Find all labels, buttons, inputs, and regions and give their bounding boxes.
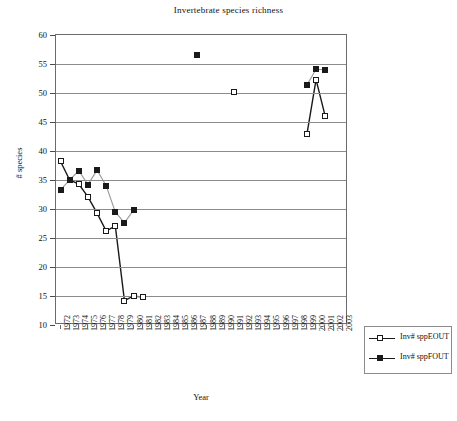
- x-tick-mark: [342, 325, 343, 329]
- x-tick-mark: [114, 325, 115, 329]
- x-tick-label: 1992: [245, 315, 254, 331]
- filled-square-icon: [112, 209, 118, 215]
- open-square-icon: [140, 294, 146, 300]
- x-tick-mark: [169, 325, 170, 329]
- filled-square-icon: [304, 82, 310, 88]
- x-tick-label: 1974: [81, 315, 90, 331]
- series-line: [61, 161, 143, 300]
- open-square-icon: [131, 293, 137, 299]
- y-tick-label: 15: [39, 291, 48, 301]
- filled-square-icon: [85, 182, 91, 188]
- x-tick-label: 1983: [163, 315, 172, 331]
- x-tick-label: 1978: [117, 315, 126, 331]
- x-tick-label: 1998: [300, 315, 309, 331]
- open-square-icon: [377, 335, 383, 341]
- filled-square-icon: [194, 52, 200, 58]
- x-tick-mark: [96, 325, 97, 329]
- x-tick-label: 1994: [263, 315, 272, 331]
- gridline: [56, 296, 346, 297]
- filled-square-icon: [377, 355, 383, 361]
- x-tick-mark: [160, 325, 161, 329]
- x-tick-mark: [297, 325, 298, 329]
- legend-label-1: Inv# sppFOUT: [400, 352, 449, 361]
- x-tick-mark: [242, 325, 243, 329]
- gridline: [56, 180, 346, 181]
- open-square-icon: [313, 77, 319, 83]
- x-tick-mark: [142, 325, 143, 329]
- x-tick-label: 2000: [318, 315, 327, 331]
- y-axis-title: # species: [14, 128, 24, 198]
- x-tick-mark: [260, 325, 261, 329]
- chart-container: Invertebrate species richness 1015202530…: [0, 0, 457, 421]
- x-tick-label: 1993: [254, 315, 263, 331]
- filled-square-icon: [67, 177, 73, 183]
- plot-area: [55, 34, 347, 324]
- y-tick-label: 50: [39, 88, 48, 98]
- chart-legend: Inv# sppEOUT Inv# sppFOUT: [364, 326, 452, 374]
- x-tick-mark: [269, 325, 270, 329]
- filled-square-icon: [313, 66, 319, 72]
- filled-square-icon: [58, 187, 64, 193]
- x-tick-mark: [233, 325, 234, 329]
- x-tick-label: 1972: [63, 315, 72, 331]
- y-tick-label: 20: [39, 262, 48, 272]
- x-tick-label: 1980: [136, 315, 145, 331]
- x-tick-label: 1986: [190, 315, 199, 331]
- x-tick-mark: [105, 325, 106, 329]
- open-square-icon: [94, 210, 100, 216]
- x-tick-label: 1976: [99, 315, 108, 331]
- x-tick-label: 1979: [126, 315, 135, 331]
- x-tick-mark: [87, 325, 88, 329]
- x-tick-label: 1987: [199, 315, 208, 331]
- x-tick-label: 1977: [108, 315, 117, 331]
- filled-square-icon: [94, 167, 100, 173]
- filled-square-icon: [121, 220, 127, 226]
- x-tick-label: 1973: [72, 315, 81, 331]
- x-tick-mark: [60, 325, 61, 329]
- open-square-icon: [85, 194, 91, 200]
- x-tick-label: 1989: [218, 315, 227, 331]
- chart-title: Invertebrate species richness: [0, 5, 457, 15]
- legend-item-1: Inv# sppFOUT: [365, 349, 451, 369]
- open-square-icon: [121, 298, 127, 304]
- y-tick-label: 40: [39, 146, 48, 156]
- x-tick-mark: [133, 325, 134, 329]
- x-tick-label: 1985: [181, 315, 190, 331]
- open-square-icon: [112, 223, 118, 229]
- gridline: [56, 122, 346, 123]
- x-tick-label: 1981: [145, 315, 154, 331]
- gridline: [56, 151, 346, 152]
- x-tick-mark: [78, 325, 79, 329]
- y-tick-label: 10: [39, 320, 48, 330]
- x-tick-label: 1990: [227, 315, 236, 331]
- open-square-icon: [231, 89, 237, 95]
- x-tick-label: 2003: [345, 315, 354, 331]
- y-tick-label: 55: [39, 59, 48, 69]
- open-square-icon: [103, 228, 109, 234]
- x-tick-mark: [196, 325, 197, 329]
- gridline: [56, 93, 346, 94]
- gridline: [56, 238, 346, 239]
- x-tick-mark: [333, 325, 334, 329]
- filled-square-icon: [322, 67, 328, 73]
- x-tick-mark: [251, 325, 252, 329]
- x-axis-title: Year: [55, 392, 347, 402]
- y-tick-label: 25: [39, 233, 48, 243]
- x-tick-mark: [178, 325, 179, 329]
- x-axis: 1972197319741975197619771978197919801981…: [55, 325, 347, 387]
- x-tick-label: 1991: [236, 315, 245, 331]
- filled-square-icon: [103, 183, 109, 189]
- x-tick-label: 2002: [336, 315, 345, 331]
- x-tick-mark: [187, 325, 188, 329]
- gridline: [56, 267, 346, 268]
- open-square-icon: [76, 181, 82, 187]
- x-tick-mark: [288, 325, 289, 329]
- y-tick-label: 60: [39, 30, 48, 40]
- x-tick-mark: [324, 325, 325, 329]
- x-tick-label: 1999: [309, 315, 318, 331]
- y-tick-label: 45: [39, 117, 48, 127]
- x-tick-mark: [123, 325, 124, 329]
- y-tick-label: 35: [39, 175, 48, 185]
- x-tick-label: 1988: [209, 315, 218, 331]
- x-tick-label: 1995: [272, 315, 281, 331]
